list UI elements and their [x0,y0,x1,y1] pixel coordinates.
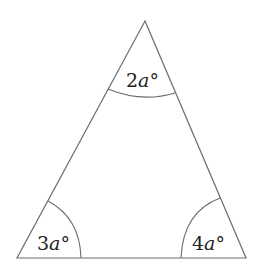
triangle-outline [17,21,246,258]
top-angle-label: 2a° [126,69,159,91]
bottom-left-angle-label: 3a° [37,232,70,254]
bottom-right-angle-label: 4a° [192,232,225,254]
triangle-diagram: 2a° 3a° 4a° [0,0,265,268]
